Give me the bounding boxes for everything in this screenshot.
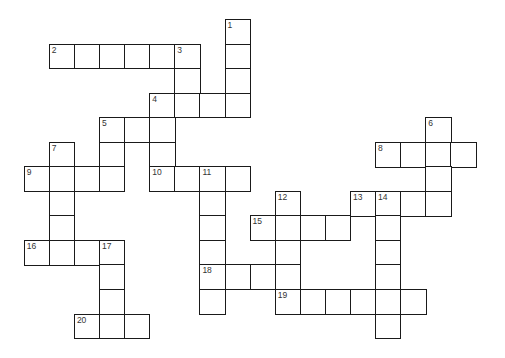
crossword-cell[interactable] <box>375 240 401 266</box>
crossword-cell-7[interactable]: 7 <box>49 142 75 168</box>
crossword-cell[interactable] <box>425 166 451 192</box>
clue-number: 5 <box>102 119 107 128</box>
crossword-cell-6[interactable]: 6 <box>425 117 451 143</box>
crossword-grid: 1234567891011121314151617181920 <box>0 0 505 358</box>
crossword-cell-1[interactable]: 1 <box>225 19 251 45</box>
clue-number: 13 <box>353 193 362 202</box>
crossword-cell[interactable] <box>99 166 125 192</box>
crossword-cell[interactable] <box>425 191 451 217</box>
crossword-cell-19[interactable]: 19 <box>275 289 301 315</box>
crossword-cell[interactable] <box>350 289 376 315</box>
crossword-cell-20[interactable]: 20 <box>74 314 100 340</box>
crossword-cell[interactable] <box>49 166 75 192</box>
crossword-cell[interactable] <box>199 191 225 217</box>
crossword-cell[interactable] <box>400 289 426 315</box>
crossword-cell[interactable] <box>49 191 75 217</box>
clue-number: 11 <box>202 168 211 177</box>
clue-number: 15 <box>253 217 262 226</box>
crossword-cell[interactable] <box>49 240 75 266</box>
crossword-cell[interactable] <box>400 191 426 217</box>
crossword-cell-10[interactable]: 10 <box>149 166 175 192</box>
crossword-cell[interactable] <box>74 166 100 192</box>
crossword-cell[interactable] <box>49 215 75 241</box>
crossword-cell-9[interactable]: 9 <box>24 166 50 192</box>
clue-number: 20 <box>77 316 86 325</box>
crossword-cell-11[interactable]: 11 <box>199 166 225 192</box>
crossword-cell[interactable] <box>375 264 401 290</box>
crossword-cell[interactable] <box>375 289 401 315</box>
crossword-cell[interactable] <box>124 44 150 70</box>
crossword-cell-12[interactable]: 12 <box>275 191 301 217</box>
crossword-cell-14[interactable]: 14 <box>375 191 401 217</box>
crossword-cell-5[interactable]: 5 <box>99 117 125 143</box>
clue-number: 10 <box>152 168 161 177</box>
crossword-cell[interactable] <box>99 44 125 70</box>
crossword-cell-18[interactable]: 18 <box>199 264 225 290</box>
clue-number: 8 <box>378 144 383 153</box>
crossword-cell-13[interactable]: 13 <box>350 191 376 217</box>
crossword-cell[interactable] <box>174 68 200 94</box>
clue-number: 18 <box>202 266 211 275</box>
crossword-cell[interactable] <box>375 215 401 241</box>
crossword-cell-3[interactable]: 3 <box>174 44 200 70</box>
crossword-cell[interactable] <box>225 264 251 290</box>
clue-number: 1 <box>228 21 233 30</box>
crossword-cell[interactable] <box>174 93 200 119</box>
crossword-cell-8[interactable]: 8 <box>375 142 401 168</box>
crossword-cell[interactable] <box>250 264 276 290</box>
crossword-cell[interactable] <box>225 93 251 119</box>
crossword-cell[interactable] <box>450 142 476 168</box>
crossword-cell[interactable] <box>74 44 100 70</box>
crossword-cell[interactable] <box>99 264 125 290</box>
crossword-cell[interactable] <box>225 166 251 192</box>
crossword-cell[interactable] <box>300 289 326 315</box>
crossword-cell[interactable] <box>425 142 451 168</box>
crossword-cell[interactable] <box>124 314 150 340</box>
crossword-cell[interactable] <box>325 215 351 241</box>
clue-number: 19 <box>278 291 287 300</box>
clue-number: 3 <box>177 46 182 55</box>
clue-number: 2 <box>52 46 57 55</box>
clue-number: 7 <box>52 144 57 153</box>
crossword-cell[interactable] <box>149 44 175 70</box>
crossword-cell[interactable] <box>99 142 125 168</box>
clue-number: 17 <box>102 242 111 251</box>
crossword-cell-16[interactable]: 16 <box>24 240 50 266</box>
crossword-cell[interactable] <box>225 68 251 94</box>
crossword-cell[interactable] <box>275 240 301 266</box>
crossword-cell-17[interactable]: 17 <box>99 240 125 266</box>
clue-number: 6 <box>428 119 433 128</box>
crossword-cell[interactable] <box>375 314 401 340</box>
clue-number: 4 <box>152 95 157 104</box>
crossword-cell[interactable] <box>99 314 125 340</box>
crossword-cell[interactable] <box>275 264 301 290</box>
crossword-cell[interactable] <box>149 142 175 168</box>
clue-number: 14 <box>378 193 387 202</box>
crossword-cell[interactable] <box>174 166 200 192</box>
crossword-cell[interactable] <box>74 240 100 266</box>
crossword-cell[interactable] <box>199 93 225 119</box>
clue-number: 16 <box>27 242 36 251</box>
crossword-cell[interactable] <box>400 142 426 168</box>
crossword-cell[interactable] <box>99 289 125 315</box>
crossword-cell[interactable] <box>225 44 251 70</box>
crossword-cell[interactable] <box>199 289 225 315</box>
clue-number: 9 <box>27 168 32 177</box>
crossword-cell[interactable] <box>149 117 175 143</box>
crossword-cell[interactable] <box>325 289 351 315</box>
crossword-cell[interactable] <box>124 117 150 143</box>
crossword-cell-4[interactable]: 4 <box>149 93 175 119</box>
crossword-cell-15[interactable]: 15 <box>250 215 276 241</box>
crossword-cell[interactable] <box>300 215 326 241</box>
crossword-cell[interactable] <box>199 240 225 266</box>
crossword-cell[interactable] <box>275 215 301 241</box>
crossword-cell-2[interactable]: 2 <box>49 44 75 70</box>
clue-number: 12 <box>278 193 287 202</box>
crossword-cell[interactable] <box>199 215 225 241</box>
